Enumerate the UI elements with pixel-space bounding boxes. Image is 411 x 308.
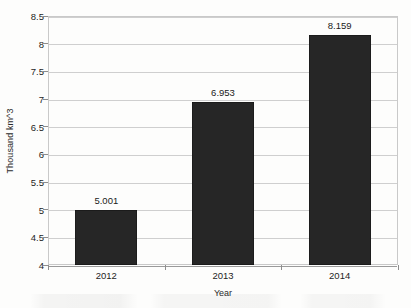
y-axis-title: Thousand km^3	[2, 0, 18, 281]
y-axis-tick-mark	[43, 237, 48, 238]
y-axis-tick-mark	[43, 154, 48, 155]
bar-value-label: 5.001	[94, 195, 118, 206]
x-axis-title-label: Year	[214, 288, 232, 298]
x-axis-tick-mark	[165, 265, 166, 270]
bar	[75, 210, 137, 265]
bar	[192, 102, 254, 265]
bar	[309, 35, 371, 265]
bar-value-label: 6.953	[211, 87, 235, 98]
y-axis-title-label: Thousand km^3	[5, 108, 15, 173]
y-axis-tick-mark	[43, 43, 48, 44]
x-axis-tick-mark	[398, 265, 399, 270]
gridline	[49, 266, 397, 267]
x-axis-tick-label: 2014	[329, 270, 350, 281]
y-axis-tick-labels: 8.587.576.565.554.54	[18, 0, 44, 308]
y-axis-tick-mark	[43, 71, 48, 72]
bar-group: 5.001	[48, 16, 165, 265]
bar-group: 6.953	[165, 16, 282, 265]
bar-value-label: 8.159	[328, 20, 352, 31]
y-axis-tick-mark	[43, 16, 48, 17]
x-axis-tick-mark	[281, 265, 282, 270]
x-axis-tick-mark	[48, 265, 49, 270]
x-axis-tick-labels: 201220132014	[48, 270, 398, 284]
x-axis-tick-label: 2012	[96, 270, 117, 281]
bars-layer: 5.0016.9538.159	[48, 16, 398, 265]
y-axis-tick-mark	[43, 126, 48, 127]
y-axis-tick-mark	[43, 209, 48, 210]
x-axis-title: Year	[48, 288, 398, 298]
y-axis-tick-mark	[43, 99, 48, 100]
x-axis-tick-label: 2013	[212, 270, 233, 281]
y-axis-tick-mark	[43, 182, 48, 183]
bar-group: 8.159	[281, 16, 398, 265]
bar-chart-figure: Thousand km^3 8.587.576.565.554.54 5.001…	[0, 0, 411, 308]
